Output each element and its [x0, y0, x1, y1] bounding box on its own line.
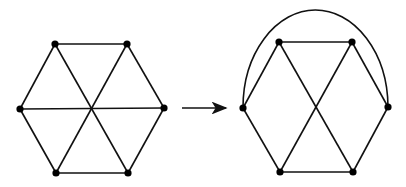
graph-node	[16, 105, 23, 112]
graph-node	[384, 103, 391, 110]
graph-node	[160, 104, 167, 111]
graph-diagram	[0, 0, 406, 187]
graph-node	[275, 38, 282, 45]
graph-edge	[353, 107, 388, 172]
left-graph	[16, 40, 167, 176]
graph-edge	[352, 42, 388, 107]
arc-edge	[243, 10, 388, 108]
graph-node	[348, 38, 355, 45]
graph-edge	[127, 44, 164, 108]
graph-node	[349, 168, 356, 175]
graph-node	[124, 169, 131, 176]
right-graph	[239, 10, 391, 176]
graph-edge	[243, 42, 279, 108]
graph-node	[52, 169, 59, 176]
graph-edge	[128, 108, 164, 173]
graph-node	[239, 104, 246, 111]
graph-edge	[243, 108, 280, 172]
graph-node	[276, 168, 283, 175]
graph-node	[123, 40, 130, 47]
graph-edge	[20, 108, 164, 109]
graph-node	[51, 40, 58, 47]
graph-edge	[20, 109, 56, 173]
graph-edge	[20, 44, 55, 109]
